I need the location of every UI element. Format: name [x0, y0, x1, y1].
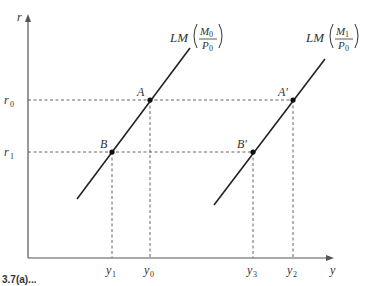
point-b-prime-label: B′: [237, 137, 247, 151]
svg-text:r: r: [4, 145, 9, 159]
point-b: [109, 149, 114, 154]
curve-label-m0: LM M 0 P 0: [169, 24, 222, 53]
svg-text:LM: LM: [169, 30, 189, 45]
lm-diagram: r y A B A′ B′ r 0 r 1 y 1 y 0 y 3 y 2: [0, 0, 367, 286]
svg-text:0: 0: [209, 30, 213, 39]
tick-y1: y 1: [105, 263, 116, 279]
point-b-label: B: [100, 137, 108, 151]
svg-text:0: 0: [209, 44, 213, 53]
point-a-prime: [290, 97, 295, 102]
tick-y3: y 3: [246, 263, 257, 279]
svg-text:0: 0: [345, 44, 349, 53]
svg-text:2: 2: [293, 270, 297, 279]
svg-text:y: y: [286, 263, 293, 277]
point-a: [147, 97, 152, 102]
svg-text:1: 1: [345, 30, 349, 39]
lm-curve-m1: [214, 59, 325, 205]
svg-text:P: P: [201, 39, 209, 51]
svg-text:y: y: [105, 263, 112, 277]
tick-y0: y 0: [143, 263, 154, 279]
tick-r0: r 0: [4, 93, 14, 109]
svg-text:0: 0: [150, 270, 154, 279]
tick-y2: y 2: [286, 263, 297, 279]
curve-label-m1: LM M 1 P 0: [305, 24, 358, 53]
svg-text:3: 3: [253, 270, 257, 279]
point-b-prime: [250, 149, 255, 154]
x-axis-label: y: [329, 263, 336, 277]
y-axis-label: r: [17, 10, 22, 24]
point-a-label: A: [136, 85, 145, 99]
figure-caption: 3.7(a)...: [2, 274, 36, 286]
svg-text:r: r: [4, 93, 9, 107]
x-axis-arrow-icon: [326, 255, 334, 261]
svg-text:LM: LM: [305, 30, 325, 45]
point-a-prime-label: A′: [277, 85, 288, 99]
svg-text:0: 0: [10, 100, 14, 109]
lm-curve-m0: [77, 48, 190, 199]
svg-text:y: y: [143, 263, 150, 277]
svg-text:P: P: [337, 39, 345, 51]
tick-r1: r 1: [4, 145, 14, 161]
svg-text:y: y: [246, 263, 253, 277]
svg-text:1: 1: [112, 270, 116, 279]
y-axis-arrow-icon: [25, 14, 31, 22]
svg-text:1: 1: [10, 152, 14, 161]
